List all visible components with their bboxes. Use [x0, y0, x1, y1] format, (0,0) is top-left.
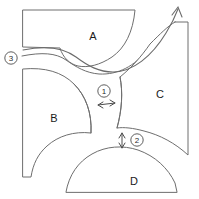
callout-3-group: 3 [5, 52, 17, 64]
region-label-a: A [89, 30, 97, 42]
region-a-shape [23, 10, 135, 67]
callout-1-group: 1 [98, 85, 115, 108]
callout-2-label: 2 [135, 136, 140, 145]
region-c-shape [117, 22, 188, 155]
diagram-svg: 1 2 3 A B C D [0, 0, 199, 199]
region-label-b: B [50, 112, 58, 124]
region-label-c: C [156, 88, 164, 100]
callout-1-label: 1 [102, 87, 107, 96]
callout-2-group: 2 [119, 133, 143, 148]
diagram-canvas: 1 2 3 A B C D [0, 0, 199, 199]
region-label-d: D [130, 175, 138, 187]
region-d-shape [66, 147, 177, 192]
callout-3-label: 3 [9, 54, 14, 63]
